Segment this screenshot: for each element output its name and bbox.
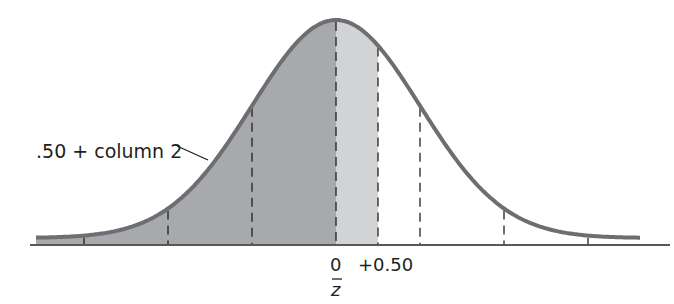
tick-label-zero: 0 (330, 254, 341, 275)
annotation-label: .50 + column 2 (36, 140, 182, 162)
axis-symbol-z-bar: z (330, 279, 341, 300)
shaded-area-left-of-mean (36, 20, 336, 244)
dashed-gridlines (84, 22, 588, 244)
tick-label-plus-half: +0.50 (358, 254, 413, 275)
shaded-area-zero-to-half (336, 20, 378, 244)
normal-curve-figure: .50 + column 2 0 +0.50 z (0, 0, 674, 304)
